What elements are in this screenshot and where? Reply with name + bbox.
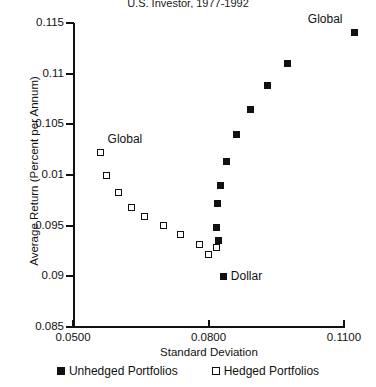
data-point-filled xyxy=(247,106,254,113)
legend-label: Unhedged Portfolios xyxy=(69,364,178,378)
x-tick-label: 0.0800 xyxy=(179,331,239,343)
x-axis-title: Standard Deviation xyxy=(73,346,345,358)
annotation-label: Global xyxy=(108,133,143,145)
data-point-open xyxy=(128,204,135,211)
y-tick-mark xyxy=(66,123,74,125)
y-tick-mark xyxy=(66,73,74,75)
data-point-filled xyxy=(351,29,358,36)
data-point-open xyxy=(103,172,110,179)
data-point-open xyxy=(160,222,167,229)
legend-item: Unhedged Portfolios xyxy=(57,364,178,378)
y-tick-mark xyxy=(66,225,74,227)
data-point-open xyxy=(205,251,212,258)
x-tick-mark xyxy=(208,320,210,328)
data-point-filled xyxy=(264,82,271,89)
data-point-filled xyxy=(223,158,230,165)
data-point-filled xyxy=(217,182,224,189)
x-tick-mark xyxy=(72,320,74,328)
data-point-filled xyxy=(233,131,240,138)
data-point-open xyxy=(115,189,122,196)
data-point-open xyxy=(196,241,203,248)
x-tick-label: 0.0500 xyxy=(43,331,103,343)
y-tick-mark xyxy=(66,22,74,24)
x-tick-mark xyxy=(343,320,345,328)
y-tick-label: 0.115 xyxy=(8,17,64,28)
data-point-filled xyxy=(284,60,291,67)
legend-item: Hedged Portfolios xyxy=(212,364,319,378)
data-point-open xyxy=(141,213,148,220)
data-point-filled xyxy=(220,273,227,280)
data-point-filled xyxy=(214,200,221,207)
data-point-open xyxy=(97,149,104,156)
chart-legend: Unhedged PortfoliosHedged Portfolios xyxy=(0,364,376,378)
data-point-open xyxy=(213,244,220,251)
x-tick-label: 0.1100 xyxy=(314,331,374,343)
legend-swatch-filled-square xyxy=(57,367,65,375)
data-point-open xyxy=(177,231,184,238)
annotation-label: Dollar xyxy=(231,270,262,282)
chart-title: U.S. Investor, 1977-1992 xyxy=(0,0,376,8)
data-point-filled xyxy=(213,224,220,231)
legend-label: Hedged Portfolios xyxy=(224,364,319,378)
scatter-chart: U.S. Investor, 1977-1992 0.1150.110.1050… xyxy=(0,0,376,387)
y-axis-title: Average Return (Percent per Annum) xyxy=(28,51,40,291)
data-point-filled xyxy=(215,237,222,244)
annotation-label: Global xyxy=(308,13,343,25)
y-tick-mark xyxy=(66,174,74,176)
legend-swatch-open-square xyxy=(212,367,220,375)
y-tick-mark xyxy=(66,275,74,277)
